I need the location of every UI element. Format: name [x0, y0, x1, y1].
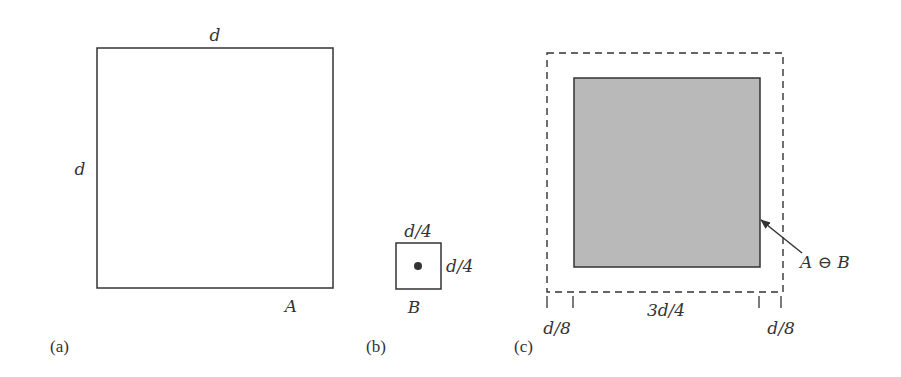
dim-middle-width: 3d/4	[647, 300, 685, 320]
eroded-square	[574, 78, 760, 267]
dim-left-margin: d/8	[543, 318, 571, 338]
panel-a: d d A (a)	[50, 25, 333, 356]
caption-a: (a)	[50, 337, 69, 356]
label-b-top: d/4	[404, 221, 431, 241]
label-set-b: B	[407, 297, 421, 317]
caption-b: (b)	[366, 337, 386, 356]
caption-c: (c)	[514, 337, 533, 356]
arrow-pointer	[761, 220, 802, 253]
label-a-top: d	[210, 25, 221, 45]
label-b-side: d/4	[446, 256, 473, 276]
label-set-a: A	[283, 296, 297, 316]
origin-dot	[414, 262, 422, 270]
panel-c: A ⊖ B d/8 3d/4 d/8 (c)	[514, 53, 850, 356]
square-a	[97, 48, 333, 288]
dim-right-margin: d/8	[767, 318, 795, 338]
erosion-diagram: d d A (a) d/4 d/4 B (b) A ⊖ B d/8 3d/4 d…	[0, 0, 901, 377]
label-a-side: d	[75, 159, 86, 179]
label-erosion-result: A ⊖ B	[798, 252, 850, 272]
panel-b: d/4 d/4 B (b)	[366, 221, 473, 356]
